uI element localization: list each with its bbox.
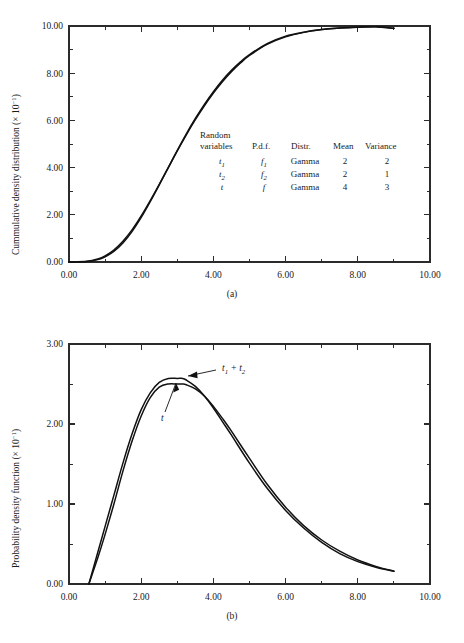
legend-header-variables: variables [200,141,233,151]
y-tick-label: 2.00 [46,210,63,220]
legend-header-mean: Mean [333,141,354,151]
y-tick-label: 0.00 [46,257,63,267]
legend-header-variance: Variance [365,141,396,151]
legend-header-distr: Distr. [291,141,311,151]
data-curve [89,384,394,584]
x-tick-label: 4.00 [205,270,222,280]
legend-cell-distr: Gamma [291,182,320,192]
annotation-t-arrow: t [161,383,179,423]
legend-rows: t1f1Gamma22t2f2Gamma21tfGamma43 [219,156,390,192]
figure-container: Cummulative density distribution (× 10−1… [0,0,464,643]
x-tick-label: 6.00 [277,592,294,602]
y-tick-label: 4.00 [46,163,63,173]
panel-b-svg: Probability density function (× 10−1) 0.… [0,320,464,643]
panel-b-tick-labels: 0.002.004.006.008.0010.000.001.002.003.0… [46,339,441,602]
annotation-t-label: t [161,413,164,423]
x-tick-label: 8.00 [349,592,366,602]
legend-header-random: Random [200,130,231,140]
legend-cell-distr: Gamma [291,169,320,179]
legend-row: t1f1Gamma22 [219,156,389,168]
y-tick-label: 8.00 [46,69,63,79]
legend-cell-mean: 4 [343,182,348,192]
legend-row: tfGamma43 [221,182,390,192]
x-tick-label: 2.00 [133,270,150,280]
legend-cell-pdf: f [263,182,267,192]
panel-a-svg: Cummulative density distribution (× 10−1… [0,0,464,320]
panel-a-legend-table: Random variables P.d.f. Distr. Mean Vari… [200,130,396,192]
svg-text:Probability density function (: Probability density function (× 10−1) [10,429,23,568]
legend-cell-variable: t2 [219,169,226,181]
x-tick-label: 10.00 [419,270,441,280]
y-tick-label: 3.00 [46,339,63,349]
legend-cell-mean: 2 [343,156,348,166]
x-tick-label: 0.00 [61,592,78,602]
panel-a-caption: (a) [227,289,238,300]
data-curve [89,378,394,584]
panel-a-y-axis-label: Cummulative density distribution (× 10−1… [10,94,23,255]
svg-text:Cummulative density distributi: Cummulative density distribution (× 10−1… [10,94,23,255]
x-tick-label: 8.00 [349,270,366,280]
annotation-sum-arrow: t1 + t2 [188,363,246,378]
legend-cell-distr: Gamma [291,156,320,166]
panel-b-curves [89,378,394,584]
legend-cell-mean: 2 [343,169,348,179]
panel-b-caption: (b) [226,611,237,622]
legend-cell-variance: 1 [385,169,390,179]
x-tick-label: 2.00 [133,592,150,602]
legend-cell-pdf: f2 [261,169,268,181]
legend-cell-variable: t [221,182,224,192]
y-tick-label: 0.00 [46,579,63,589]
annotation-sum-label: t1 + t2 [222,363,246,375]
panel-b-probability-density: Probability density function (× 10−1) 0.… [0,320,464,643]
y-tick-label: 10.00 [42,21,64,31]
y-tick-label: 1.00 [46,499,63,509]
legend-cell-pdf: f1 [261,156,267,168]
x-tick-label: 6.00 [277,270,294,280]
legend-cell-variance: 2 [385,156,390,166]
x-tick-label: 4.00 [205,592,222,602]
x-tick-label: 10.00 [419,592,441,602]
y-tick-label: 2.00 [46,419,63,429]
panel-b-y-axis-label: Probability density function (× 10−1) [10,429,23,568]
x-tick-label: 0.00 [61,270,78,280]
panel-a-cumulative-density: Cummulative density distribution (× 10−1… [0,0,464,320]
legend-cell-variance: 3 [385,182,390,192]
legend-cell-variable: t1 [219,156,225,168]
legend-row: t2f2Gamma21 [219,169,389,181]
y-tick-label: 6.00 [46,116,63,126]
legend-header-pdf: P.d.f. [252,141,270,151]
